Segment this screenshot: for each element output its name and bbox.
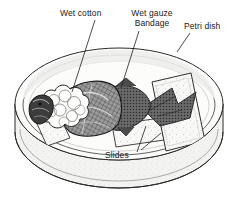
label-wet-gauze-line1: Wet gauze (131, 8, 172, 18)
label-wet-cotton: Wet cotton (60, 8, 101, 18)
figure-container: Wet cotton Wet gauze Bandage Petri dish … (0, 0, 238, 212)
label-petri-dish: Petri dish (184, 21, 220, 31)
leader-petri-dish (177, 33, 190, 52)
label-bandage-line2: Bandage (135, 18, 170, 28)
label-wet-gauze-bandage: Wet gauze Bandage (126, 8, 178, 28)
petri-dish-illustration (0, 0, 238, 212)
label-slides: Slides (105, 150, 129, 160)
